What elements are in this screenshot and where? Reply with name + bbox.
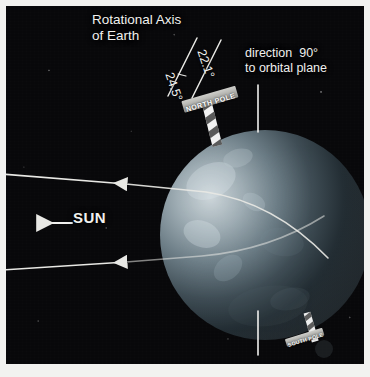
south-pole-shadow [315,340,333,358]
orbital-plane-direction-label: direction 90° to orbital plane [245,46,327,76]
earth-axial-tilt-figure: Rotational Axis of Earth direction 90° t… [0,0,370,377]
sun-label: SUN [73,209,106,227]
diagram-frame: Rotational Axis of Earth direction 90° t… [6,6,364,364]
orbital-line-upper-left [6,174,126,184]
earth-globe [160,130,364,340]
rotational-axis-label: Rotational Axis of Earth [92,12,181,44]
orbital-line-lower-left [6,262,126,270]
